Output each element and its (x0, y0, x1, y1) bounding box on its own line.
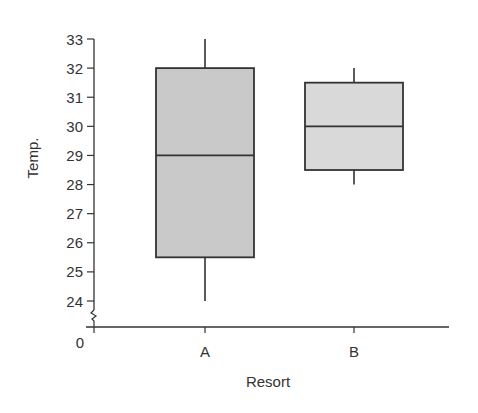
iqr-box (156, 68, 254, 257)
y-axis: 24252627282930313233 (66, 31, 96, 334)
y-tick-label: 31 (66, 89, 83, 106)
box-a (156, 39, 254, 301)
y-tick-label: 29 (66, 147, 83, 164)
axis-break-icon (91, 310, 96, 333)
y-tick-label: 25 (66, 263, 83, 280)
y-tick-label: 27 (66, 205, 83, 222)
y-tick-label: 30 (66, 118, 83, 135)
box-plot-series (156, 39, 403, 301)
x-axis: AB (86, 327, 449, 360)
y-tick-label: 26 (66, 234, 83, 251)
x-tick-label: B (349, 343, 359, 360)
y-tick-label: 28 (66, 176, 83, 193)
box-plot-chart: 24252627282930313233 AB Temp. Resort 0 (0, 0, 478, 413)
y-tick-label: 33 (66, 31, 83, 48)
y-origin-label: 0 (76, 334, 84, 351)
y-tick-label: 24 (66, 293, 83, 310)
x-axis-title: Resort (246, 373, 291, 390)
box-b (305, 68, 403, 184)
y-tick-label: 32 (66, 60, 83, 77)
x-tick-label: A (200, 343, 210, 360)
y-axis-title: Temp. (24, 138, 41, 179)
